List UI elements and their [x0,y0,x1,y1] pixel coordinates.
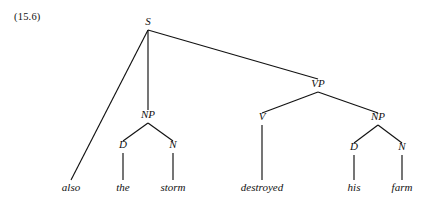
example-number-label: (15.6) [14,11,41,23]
leaf-word-storm: storm [160,181,185,193]
syntax-tree-figure: (15.6) S NP D N VP V NP D N also th [0,0,429,206]
node-label-vp: VP [311,77,325,89]
leaf-word-the: the [116,181,130,193]
node-label-d-his: D [349,140,358,152]
leaf-word-his: his [348,181,361,193]
branch-s-to-also [71,30,148,180]
branch-vp-to-v [262,92,318,113]
node-label-n-farm: N [397,140,406,152]
leaf-word-farm: farm [392,181,413,193]
node-label-np-object: NP [370,110,385,122]
leaf-word-also: also [62,181,81,193]
node-label-n-storm: N [168,138,177,150]
syntax-tree-canvas: (15.6) S NP D N VP V NP D N also th [0,0,429,206]
node-label-np-subject: NP [140,108,155,120]
branch-s-to-vp [148,30,318,79]
leaf-word-destroyed: destroyed [241,181,284,193]
node-label-d-the: D [118,138,127,150]
node-label-s: S [145,15,151,27]
branch-vp-to-np-object [318,92,378,113]
